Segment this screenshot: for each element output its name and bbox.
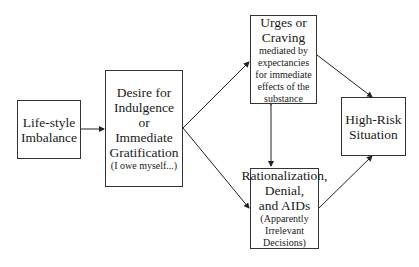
node-note: effects of the bbox=[257, 81, 309, 93]
node-desire-for-indulgence: Desire for Indulgence or Immediate Grati… bbox=[105, 70, 183, 187]
node-note: mediated by bbox=[259, 45, 308, 57]
node-high-risk-situation: High-Risk Situation bbox=[341, 97, 406, 156]
node-label: Denial, bbox=[265, 183, 304, 198]
node-note: for immediate bbox=[255, 69, 311, 81]
node-rationalization-denial: Rationalization, Denial, and AIDs (Appar… bbox=[250, 168, 319, 249]
node-label: and AIDs bbox=[259, 198, 310, 213]
node-note: Decisions) bbox=[263, 237, 306, 249]
node-label: Situation bbox=[349, 127, 398, 142]
node-note: substance bbox=[264, 93, 303, 105]
node-urges-or-craving: Urges or Craving mediated by expectancie… bbox=[250, 15, 317, 104]
node-label: Life-style bbox=[23, 115, 75, 130]
node-label: Urges or bbox=[260, 15, 307, 30]
node-note: Irrelevant bbox=[265, 225, 304, 237]
node-label: Indulgence bbox=[114, 100, 174, 115]
node-label: Rationalization, bbox=[242, 168, 328, 183]
node-label: Immediate bbox=[115, 130, 173, 145]
node-label: or bbox=[138, 115, 149, 130]
arrow-desire-to-rationalization bbox=[183, 128, 249, 208]
arrow-urges-to-highrisk bbox=[317, 55, 372, 97]
node-lifestyle-imbalance: Life-style Imbalance bbox=[17, 100, 81, 159]
node-note: expectancies bbox=[258, 57, 309, 69]
node-label: Imbalance bbox=[21, 130, 77, 145]
node-label: Gratification bbox=[110, 145, 179, 160]
node-note: (Apparently bbox=[260, 213, 308, 225]
node-label: Craving bbox=[262, 30, 306, 45]
arrow-desire-to-urges bbox=[183, 62, 249, 128]
node-label: High-Risk bbox=[345, 112, 401, 127]
node-label: Desire for bbox=[117, 85, 171, 100]
node-note: (I owe myself...) bbox=[111, 160, 177, 172]
